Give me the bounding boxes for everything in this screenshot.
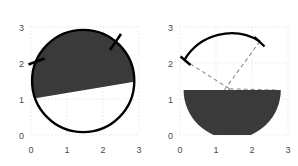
right-panel-svg: 3 2 1 0 0 1 2 3 <box>149 0 298 166</box>
filled-lower-half-disk <box>183 90 280 139</box>
chart-panel-right: 3 2 1 0 0 1 2 3 <box>149 0 298 166</box>
left-xtick-0: 0 <box>28 145 33 155</box>
left-ytick-1: 1 <box>19 95 24 105</box>
left-xtick-2: 2 <box>100 145 105 155</box>
left-xtick-1: 1 <box>64 145 69 155</box>
left-ytick-3: 3 <box>19 23 24 33</box>
right-ytick-3: 3 <box>167 23 172 33</box>
left-ytick-0: 0 <box>19 131 24 141</box>
right-xtick-2: 2 <box>249 145 254 155</box>
left-panel-svg: 3 2 1 0 0 1 2 3 <box>0 0 149 166</box>
right-xtick-3: 3 <box>285 145 290 155</box>
right-xtick-1: 1 <box>213 145 218 155</box>
arc-end-tick-right <box>254 37 264 47</box>
solid-arc-upper <box>184 33 260 60</box>
right-ytick-2: 2 <box>167 59 172 69</box>
dashed-chord-horizontal <box>229 89 277 90</box>
left-ytick-2: 2 <box>19 59 24 69</box>
right-ytick-1: 1 <box>167 95 172 105</box>
chart-panel-left: 3 2 1 0 0 1 2 3 <box>0 0 149 166</box>
right-ytick-0: 0 <box>167 131 172 141</box>
filled-major-segment <box>32 29 134 98</box>
figure-two-panel-chart: 3 2 1 0 0 1 2 3 <box>0 0 297 166</box>
left-xtick-3: 3 <box>136 145 141 155</box>
right-xtick-0: 0 <box>177 145 182 155</box>
dashed-radius-left <box>184 60 229 89</box>
